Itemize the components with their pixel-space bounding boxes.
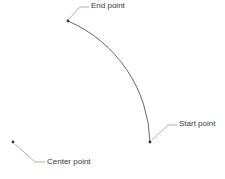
end-point-leader [69, 7, 89, 19]
start-point-label: Start point [179, 119, 215, 129]
start-point-marker [149, 141, 152, 144]
center-point-label: Center point [47, 157, 91, 167]
center-point-marker [12, 141, 15, 144]
arc-curve [68, 21, 150, 142]
center-point-leader [15, 144, 45, 162]
end-point-label: End point [91, 1, 125, 11]
start-point-leader [152, 125, 177, 140]
arc-diagram [0, 0, 225, 179]
end-point-marker [67, 20, 70, 23]
